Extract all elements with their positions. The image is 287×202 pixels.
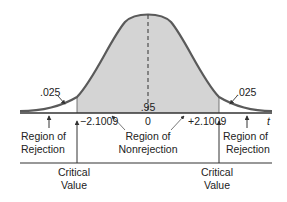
right-critical-value: +2.1009 [188, 115, 226, 127]
right-critical-label-1: Critical [201, 166, 233, 178]
center-zero: 0 [145, 115, 151, 127]
left-tail-area: .025 [40, 86, 61, 98]
left-region-label-2: Rejection [21, 143, 65, 155]
left-critical-value: −2.1009 [80, 115, 118, 127]
right-critical-label-2: Value [204, 179, 230, 191]
left-critical-label-2: Value [61, 179, 87, 191]
right-region-label-2: Rejection [226, 143, 270, 155]
right-region-label-1: Region of [223, 130, 268, 142]
nonrejection-arrow-right [171, 116, 184, 130]
center-region-label-1: Region of [126, 130, 171, 142]
axis-variable-t: t [267, 115, 271, 127]
t-distribution-diagram: .025 .025 .95 −2.1009 0 +2.1009 t Region… [0, 0, 287, 202]
center-area: .95 [141, 101, 156, 113]
left-critical-label-1: Critical [58, 166, 90, 178]
left-region-label-1: Region of [21, 130, 66, 142]
center-region-label-2: Nonrejection [119, 143, 178, 155]
right-tail-area: .025 [236, 86, 257, 98]
